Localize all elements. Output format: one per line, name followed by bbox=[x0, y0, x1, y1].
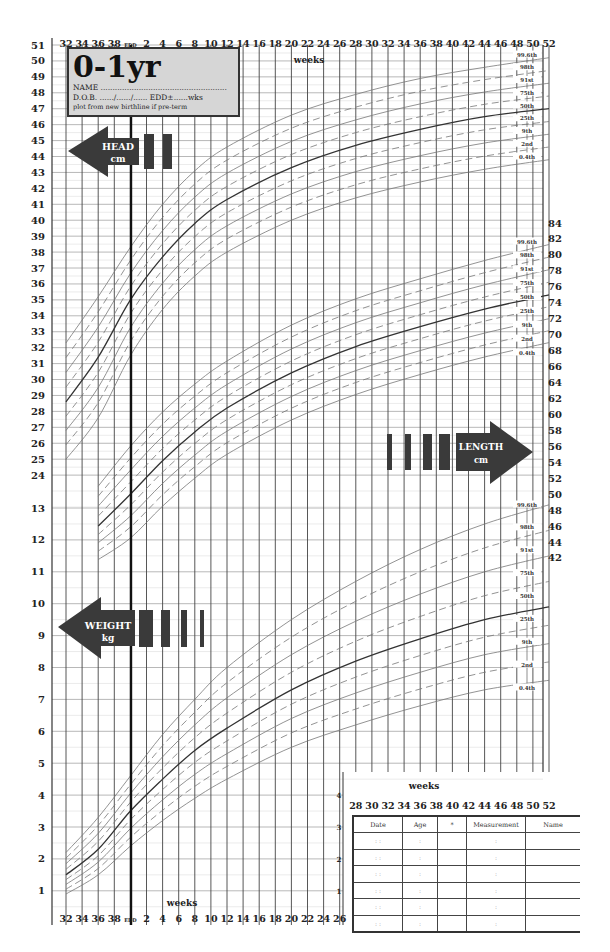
table-cell[interactable] bbox=[526, 915, 581, 932]
table-cell[interactable]: : bbox=[467, 833, 526, 850]
centile-label: 50th bbox=[520, 294, 534, 300]
col-name: Name bbox=[526, 816, 581, 833]
left-head-weight-axis: 5150494847464544434241403938373635343332… bbox=[31, 40, 341, 897]
name-field[interactable]: NAME ...................................… bbox=[73, 83, 234, 93]
bottom-week-tick: 6 bbox=[175, 913, 182, 924]
centile-label: 98th bbox=[520, 252, 534, 258]
table-cell[interactable] bbox=[526, 866, 581, 883]
centile-label: 25th bbox=[520, 115, 534, 121]
table-cell[interactable]: : : bbox=[353, 882, 403, 899]
table-cell[interactable] bbox=[438, 833, 467, 850]
length-arrow-unit: cm bbox=[474, 455, 488, 465]
centile-label: 99.6th bbox=[517, 52, 537, 58]
length-tick: 72 bbox=[548, 313, 562, 324]
top-week-tick: 36 bbox=[414, 38, 428, 49]
table-cell[interactable]: : bbox=[467, 915, 526, 932]
chart-title-box: 0-1yr NAME .............................… bbox=[67, 47, 240, 117]
bottom-week-tick: 4 bbox=[159, 913, 166, 924]
centile-label: 75th bbox=[520, 280, 534, 286]
weight-tick: 4 bbox=[38, 790, 45, 801]
centile-label: 99.6th bbox=[517, 239, 537, 245]
table-cell[interactable] bbox=[438, 882, 467, 899]
head-tick: 28 bbox=[31, 406, 45, 417]
length-tick: 64 bbox=[548, 377, 562, 388]
right-week-tick: 34 bbox=[397, 800, 411, 811]
table-cell[interactable]: : bbox=[467, 882, 526, 899]
table-cell[interactable]: : bbox=[467, 899, 526, 916]
centile-label: 0.4th bbox=[519, 350, 535, 356]
weight-tick: 12 bbox=[31, 534, 45, 545]
table-cell[interactable]: : bbox=[403, 882, 438, 899]
centile-label: 2nd bbox=[521, 336, 533, 342]
centile-label: 75th bbox=[520, 570, 534, 576]
top-week-tick: 42 bbox=[462, 38, 475, 49]
head-tick: 45 bbox=[31, 135, 45, 146]
right-week-tick: 50 bbox=[526, 800, 540, 811]
top-week-tick: 20 bbox=[285, 38, 299, 49]
table-cell[interactable]: : bbox=[467, 866, 526, 883]
col-measurement: Measurement bbox=[467, 816, 526, 833]
table-cell[interactable]: : bbox=[467, 849, 526, 866]
centile-label: 9th bbox=[522, 639, 532, 645]
top-week-tick: 26 bbox=[333, 38, 347, 49]
table-cell[interactable]: : : bbox=[353, 899, 403, 916]
right-week-tick: 52 bbox=[542, 800, 555, 811]
table-cell[interactable]: : bbox=[403, 899, 438, 916]
centile-label: 91st bbox=[520, 547, 534, 553]
centile-label: 0.4th bbox=[519, 154, 535, 160]
top-week-tick: 16 bbox=[253, 38, 267, 49]
weight-tick: 9 bbox=[38, 630, 45, 641]
length-tick: 42 bbox=[548, 552, 562, 563]
table-cell[interactable]: : bbox=[403, 866, 438, 883]
centile-label: 50th bbox=[520, 103, 534, 109]
length-tick: 60 bbox=[548, 409, 562, 420]
right-week-tick: 36 bbox=[414, 800, 428, 811]
dob-edd-field[interactable]: D.O.B. ....../....../...... EDD±......wk… bbox=[73, 93, 234, 103]
top-week-tick: 40 bbox=[446, 38, 460, 49]
table-cell[interactable] bbox=[526, 833, 581, 850]
length-tick: 68 bbox=[548, 345, 562, 356]
weight-tick: 3 bbox=[38, 822, 45, 833]
table-cell[interactable]: : : bbox=[353, 915, 403, 932]
centile-label: 25th bbox=[520, 308, 534, 314]
table-cell[interactable] bbox=[526, 899, 581, 916]
weight-tick: 10 bbox=[31, 598, 45, 609]
head-tick: 51 bbox=[31, 40, 45, 51]
head-tick: 33 bbox=[31, 326, 45, 337]
bottom-week-tick: 18 bbox=[269, 913, 283, 924]
table-cell[interactable] bbox=[526, 882, 581, 899]
head-tick: 46 bbox=[31, 119, 45, 130]
head-tick: 39 bbox=[31, 231, 45, 242]
table-cell[interactable]: : bbox=[403, 849, 438, 866]
head-tick: 48 bbox=[31, 87, 45, 98]
bottom-week-tick: 20 bbox=[285, 913, 299, 924]
length-tick: 76 bbox=[548, 281, 562, 292]
head-tick: 49 bbox=[31, 71, 45, 82]
weeks-label-top: weeks bbox=[293, 55, 325, 65]
table-cell[interactable] bbox=[526, 849, 581, 866]
bottom-week-tick: 8 bbox=[191, 913, 198, 924]
head-arrow-label: HEAD bbox=[102, 141, 134, 152]
centile-label: 9th bbox=[522, 128, 532, 134]
table-cell[interactable] bbox=[438, 899, 467, 916]
inner-weight-tick: 2 bbox=[337, 855, 342, 864]
table-header-row: Date Age * Measurement Name bbox=[353, 816, 580, 833]
length-tick: 82 bbox=[548, 233, 562, 244]
table-cell[interactable]: : bbox=[403, 833, 438, 850]
top-week-tick: 18 bbox=[269, 38, 283, 49]
table-cell[interactable]: : : bbox=[353, 866, 403, 883]
length-arrow-icon bbox=[456, 421, 533, 484]
length-arrow: LENGTH cm bbox=[387, 421, 533, 484]
right-week-tick: 28 bbox=[349, 800, 363, 811]
table-cell[interactable] bbox=[438, 849, 467, 866]
table-cell[interactable]: : bbox=[403, 915, 438, 932]
weight-tick: 6 bbox=[38, 726, 45, 737]
table-cell[interactable]: : : bbox=[353, 833, 403, 850]
top-week-tick: 28 bbox=[349, 38, 363, 49]
bottom-week-tick: 36 bbox=[92, 913, 106, 924]
length-tick: 48 bbox=[548, 505, 562, 516]
table-cell[interactable] bbox=[438, 915, 467, 932]
length-tick: 58 bbox=[548, 425, 562, 436]
table-cell[interactable]: : : bbox=[353, 849, 403, 866]
table-cell[interactable] bbox=[438, 866, 467, 883]
